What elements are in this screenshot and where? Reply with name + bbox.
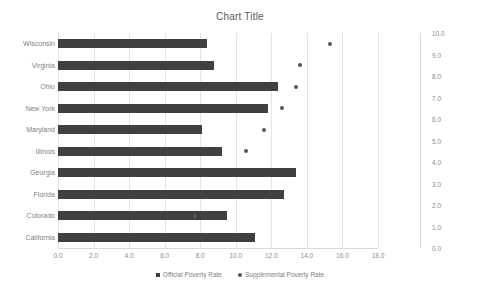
category-label: Wisconsin <box>3 39 55 48</box>
secondary-tick-label: 9.0 <box>432 51 441 58</box>
secondary-tick-label: 3.0 <box>432 180 441 187</box>
x-tick-label: 18.0 <box>372 252 385 259</box>
legend-label: Supplemental Poverty Rate <box>245 271 324 278</box>
data-point <box>280 106 284 110</box>
x-axis-tick-labels: 0.02.04.06.08.010.012.014.016.018.0 <box>0 252 480 266</box>
x-tick-label: 14.0 <box>301 252 314 259</box>
x-tick-label: 16.0 <box>336 252 349 259</box>
category-label: New York <box>3 104 55 113</box>
legend-circle-icon <box>238 273 242 277</box>
secondary-tick-label: 5.0 <box>432 137 441 144</box>
x-tick-label: 12.0 <box>265 252 278 259</box>
bar <box>58 104 268 113</box>
secondary-tick-label: 7.0 <box>432 94 441 101</box>
x-tick-label: 8.0 <box>196 252 205 259</box>
data-point <box>193 214 197 218</box>
legend-item[interactable]: Official Poverty Rate <box>156 271 222 278</box>
category-axis-labels: WisconsinVirginiaOhioNew YorkMarylandIll… <box>0 33 55 248</box>
chart-container: Chart Title WisconsinVirginiaOhioNew Yor… <box>0 0 480 292</box>
chart-title: Chart Title <box>0 11 480 22</box>
bar <box>58 82 278 91</box>
legend-square-icon <box>156 273 160 277</box>
secondary-tick-label: 0.0 <box>432 245 441 252</box>
secondary-y-axis-line <box>420 33 421 248</box>
data-point <box>298 63 302 67</box>
data-point <box>294 85 298 89</box>
secondary-tick-label: 1.0 <box>432 223 441 230</box>
data-point <box>328 42 332 46</box>
x-tick-label: 10.0 <box>229 252 242 259</box>
secondary-tick-label: 8.0 <box>432 73 441 80</box>
category-label: Maryland <box>3 125 55 134</box>
bar <box>58 125 202 134</box>
gridline <box>271 33 272 248</box>
bar <box>58 190 284 199</box>
secondary-tick-label: 2.0 <box>432 202 441 209</box>
category-label: Florida <box>3 190 55 199</box>
x-tick-label: 6.0 <box>160 252 169 259</box>
gridline <box>342 33 343 248</box>
data-point <box>262 128 266 132</box>
x-axis-line <box>58 248 378 249</box>
secondary-axis-tick-labels: 10.09.08.07.06.05.04.03.02.01.00.0 <box>424 33 478 248</box>
bar <box>58 168 296 177</box>
plot-area <box>58 33 378 248</box>
gridline <box>236 33 237 248</box>
category-label: California <box>3 233 55 242</box>
x-tick-label: 4.0 <box>125 252 134 259</box>
category-label: Illinois <box>3 147 55 156</box>
legend-item[interactable]: Supplemental Poverty Rate <box>238 271 324 278</box>
category-label: Ohio <box>3 82 55 91</box>
x-tick-label: 0.0 <box>53 252 62 259</box>
secondary-tick-label: 6.0 <box>432 116 441 123</box>
secondary-tick-label: 10.0 <box>432 30 445 37</box>
bar <box>58 233 255 242</box>
secondary-tick-label: 4.0 <box>432 159 441 166</box>
category-label: Georgia <box>3 168 55 177</box>
chart-legend: Official Poverty RateSupplemental Povert… <box>0 271 480 278</box>
category-label: Colorado <box>3 211 55 220</box>
legend-label: Official Poverty Rate <box>163 271 222 278</box>
x-tick-label: 2.0 <box>89 252 98 259</box>
bar <box>58 61 214 70</box>
gridline <box>307 33 308 248</box>
bar <box>58 147 222 156</box>
bar <box>58 39 207 48</box>
gridline <box>378 33 379 248</box>
bar <box>58 211 227 220</box>
data-point <box>244 149 248 153</box>
category-label: Virginia <box>3 61 55 70</box>
